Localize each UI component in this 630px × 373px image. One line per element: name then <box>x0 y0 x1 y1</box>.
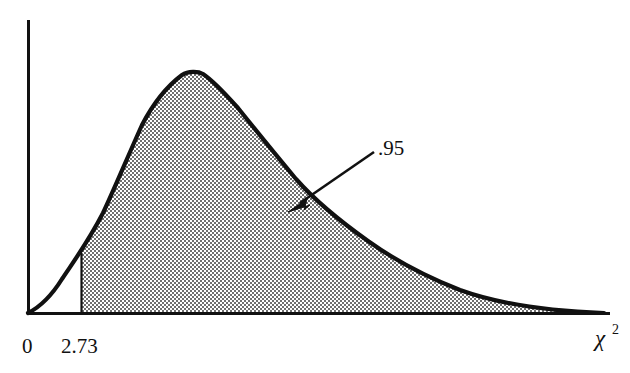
x-tick-label-origin: 0 <box>22 334 33 358</box>
chi-symbol: χ <box>593 326 606 351</box>
probability-label: .95 <box>378 136 404 160</box>
chi-exponent: 2 <box>612 322 619 337</box>
annotation-leader-line <box>300 152 374 203</box>
x-tick-label-critical-value: 2.73 <box>61 334 98 358</box>
chart-canvas: .95 0 2.73 χ 2 <box>0 0 630 373</box>
x-axis-variable-label: χ 2 <box>593 322 619 351</box>
chi-square-distribution-chart: .95 0 2.73 χ 2 <box>0 0 630 373</box>
